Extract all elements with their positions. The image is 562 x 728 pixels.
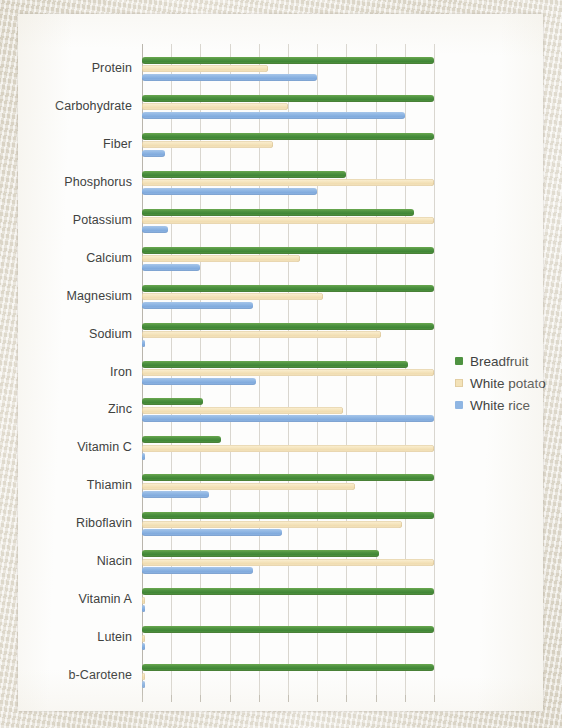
bar-calcium-white-potato [142,255,300,262]
category-label-b-carotene: b-Carotene [18,668,132,682]
bar-zinc-breadfruit [142,398,203,405]
category-label-protein: Protein [18,61,132,75]
bar-vitamin-a-breadfruit [142,588,434,595]
legend-swatch-icon [455,357,463,365]
bar-b-carotene-white-potato [142,673,145,680]
legend-item-breadfruit[interactable]: Breadfruit [455,350,546,372]
legend-item-white-rice[interactable]: White rice [455,394,546,416]
bar-potassium-white-rice [142,226,168,233]
x-axis-tick [142,695,143,702]
bar-riboflavin-white-potato [142,521,402,528]
bar-b-carotene-breadfruit [142,664,434,671]
bar-magnesium-breadfruit [142,285,434,292]
bar-vitamin-c-white-rice [142,453,145,460]
bar-calcium-white-rice [142,264,200,271]
category-label-iron: Iron [18,365,132,379]
bar-carbohydrate-breadfruit [142,95,434,102]
chart-legend: BreadfruitWhite potatoWhite rice [455,350,546,416]
category-label-thiamin: Thiamin [18,478,132,492]
bar-iron-white-potato [142,369,434,376]
bar-zinc-white-potato [142,407,343,414]
category-label-zinc: Zinc [18,402,132,416]
x-axis-tick [405,695,406,702]
bar-b-carotene-white-rice [142,681,145,688]
bar-carbohydrate-white-potato [142,103,288,110]
bar-niacin-white-potato [142,559,434,566]
x-axis-tick [288,695,289,702]
bar-niacin-white-rice [142,567,253,574]
x-axis-tick [230,695,231,702]
category-label-vitamin-a: Vitamin A [18,592,132,606]
bar-protein-white-rice [142,74,317,81]
bar-fiber-breadfruit [142,133,434,140]
bar-lutein-white-rice [142,643,145,650]
legend-label: Breadfruit [470,354,529,369]
x-axis-tick [317,695,318,702]
bar-riboflavin-white-rice [142,529,282,536]
bar-potassium-white-potato [142,217,434,224]
legend-label: White potato [470,376,546,391]
bar-magnesium-white-rice [142,302,253,309]
bar-thiamin-breadfruit [142,474,434,481]
bar-vitamin-a-white-rice [142,605,145,612]
bar-fiber-white-potato [142,141,273,148]
bar-sodium-white-potato [142,331,381,338]
bar-calcium-breadfruit [142,247,434,254]
category-label-magnesium: Magnesium [18,289,132,303]
x-axis-tick [346,695,347,702]
x-axis-tick [434,695,435,702]
legend-swatch-icon [455,401,463,409]
bar-lutein-white-potato [142,635,145,642]
bar-iron-white-rice [142,378,256,385]
gridline [434,44,435,695]
category-label-sodium: Sodium [18,327,132,341]
bar-iron-breadfruit [142,361,408,368]
x-axis-tick [259,695,260,702]
category-label-potassium: Potassium [18,213,132,227]
category-label-vitamin-c: Vitamin C [18,440,132,454]
legend-label: White rice [470,398,530,413]
category-label-carbohydrate: Carbohydrate [18,99,132,113]
bar-sodium-white-rice [142,340,145,347]
bar-phosphorus-white-potato [142,179,434,186]
bar-thiamin-white-potato [142,483,355,490]
x-axis-tick [200,695,201,702]
x-axis-tick [171,695,172,702]
legend-item-white-potato[interactable]: White potato [455,372,546,394]
bar-carbohydrate-white-rice [142,112,405,119]
bar-protein-breadfruit [142,57,434,64]
legend-swatch-icon [455,379,463,387]
bar-phosphorus-white-rice [142,188,317,195]
bar-riboflavin-breadfruit [142,512,434,519]
bar-potassium-breadfruit [142,209,414,216]
category-label-calcium: Calcium [18,251,132,265]
category-label-riboflavin: Riboflavin [18,516,132,530]
bar-lutein-breadfruit [142,626,434,633]
bar-vitamin-c-white-potato [142,445,434,452]
bar-zinc-white-rice [142,415,434,422]
bar-protein-white-potato [142,65,268,72]
bar-vitamin-c-breadfruit [142,436,221,443]
category-label-niacin: Niacin [18,554,132,568]
bar-vitamin-a-white-potato [142,597,145,604]
category-label-phosphorus: Phosphorus [18,175,132,189]
bar-fiber-white-rice [142,150,165,157]
bar-phosphorus-breadfruit [142,171,346,178]
category-label-lutein: Lutein [18,630,132,644]
bar-magnesium-white-potato [142,293,323,300]
chart-panel: ProteinCarbohydrateFiberPhosphorusPotass… [18,14,543,711]
x-axis-tick [376,695,377,702]
category-label-fiber: Fiber [18,137,132,151]
bar-niacin-breadfruit [142,550,379,557]
bar-thiamin-white-rice [142,491,209,498]
bar-sodium-breadfruit [142,323,434,330]
